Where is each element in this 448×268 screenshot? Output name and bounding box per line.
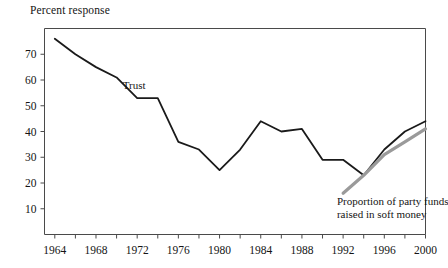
soft-money-series-annotation: Proportion of party fundsraised in soft … [337,195,448,220]
x-tick-label: 1992 [332,244,355,256]
x-tick-label: 1968 [84,244,107,256]
x-tick-label: 2000 [414,244,437,256]
series-line [55,39,426,175]
y-axis-ticks [41,54,45,209]
y-tick-label: 10 [25,203,37,215]
chart-figure: Percent response 10203040506070 19641968… [0,0,448,268]
y-tick-label: 50 [25,100,37,112]
y-tick-label: 40 [25,126,37,138]
x-tick-label: 1980 [208,244,231,256]
y-tick-label: 70 [25,48,37,60]
y-tick-label: 20 [25,177,37,189]
x-axis-tick-labels: 1964196819721976198019841988199219962000 [43,244,437,256]
y-axis-tick-labels: 10203040506070 [25,48,37,215]
series-annotations: TrustProportion of party fundsraised in … [123,79,448,220]
x-tick-label: 1988 [290,244,313,256]
data-series-lines [55,39,426,194]
series-line [343,129,425,193]
x-tick-label: 1984 [249,244,272,256]
y-tick-label: 30 [25,151,37,163]
x-tick-label: 1972 [126,244,149,256]
x-tick-label: 1964 [43,244,66,256]
x-axis-ticks [55,235,426,239]
line-chart-plot: 10203040506070 1964196819721976198019841… [0,0,448,268]
trust-series-annotation: Trust [123,79,146,91]
x-tick-label: 1976 [167,244,190,256]
y-tick-label: 60 [25,74,37,86]
x-tick-label: 1996 [373,244,396,256]
